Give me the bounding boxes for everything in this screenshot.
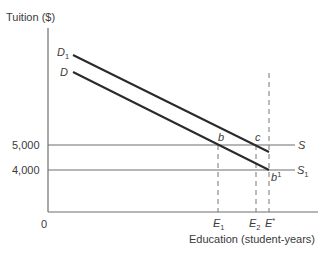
d-label: D: [60, 66, 68, 78]
tuition-education-diagram: Tuition ($) Education (student-years) 0 …: [0, 0, 331, 253]
origin-label: 0: [41, 218, 47, 230]
e2-label: E2: [249, 217, 261, 232]
point-b1-label: b1: [271, 170, 281, 183]
demand-line-d: [73, 72, 269, 170]
point-b-label: b: [218, 131, 224, 143]
demand-line-d1: [73, 55, 269, 152]
d1-label: D1: [57, 46, 69, 61]
e-star-label: E*: [265, 216, 275, 229]
s-label: S: [298, 139, 306, 151]
y-axis-label: Tuition ($): [6, 11, 55, 23]
e1-label: E1: [213, 217, 225, 232]
y-tick-4000: 4,000: [12, 164, 40, 176]
s1-label: S1: [297, 164, 309, 179]
point-c-label: c: [255, 131, 261, 143]
y-tick-5000: 5,000: [12, 139, 40, 151]
x-axis-label: Education (student-years): [189, 233, 315, 245]
